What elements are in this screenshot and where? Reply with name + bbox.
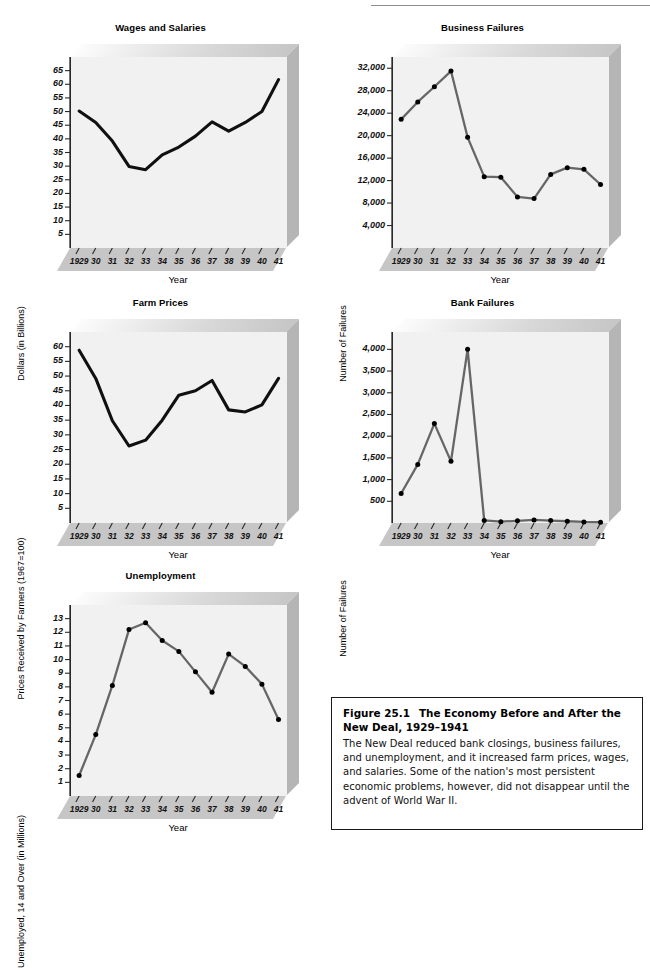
data-point (482, 518, 487, 523)
x-tick (109, 248, 112, 254)
y-tick-label: 13 (53, 613, 63, 623)
y-tick-label: 1 (58, 776, 63, 786)
x-tick (126, 523, 129, 529)
y-tick-label: 3,500 (362, 365, 385, 375)
data-point (143, 620, 148, 625)
x-tick (564, 248, 567, 254)
y-tick-label: 5 (58, 228, 63, 238)
y-tick-label: 500 (370, 495, 385, 505)
data-line-wages (79, 80, 278, 170)
figure-caption-heading: Figure 25.1The Economy Before and After … (343, 707, 631, 734)
x-tick (142, 523, 145, 529)
x-tick (225, 248, 228, 254)
chart-title-bank-failures: Bank Failures (330, 297, 635, 309)
y-tick-label: 50 (53, 106, 63, 116)
chart-farm-prices: Farm Prices51015202530354045505560192930… (8, 297, 313, 562)
data-point (482, 174, 487, 179)
y-tick-label: 3,000 (362, 387, 385, 397)
data-point (110, 683, 115, 688)
data-point (399, 117, 404, 122)
figure-caption-text: The New Deal reduced bank closings, busi… (343, 737, 631, 808)
figure-number: Figure 25.1 (343, 707, 410, 719)
y-tick-label: 8,000 (362, 197, 385, 207)
y-tick-label: 55 (53, 92, 63, 102)
x-tick (531, 248, 534, 254)
y-tick-label: 65 (53, 65, 63, 75)
data-point (565, 519, 570, 524)
y-tick-label: 45 (53, 385, 63, 395)
y-tick-label: 15 (53, 201, 63, 211)
x-tick (259, 523, 262, 529)
y-tick-label: 35 (53, 414, 63, 424)
data-line-unemployment (79, 623, 278, 776)
x-tick (176, 796, 179, 802)
y-tick-label: 10 (53, 654, 63, 664)
chart-body-business-failures: 4,0008,00012,00016,00020,00024,00028,000… (330, 36, 635, 287)
x-tick (93, 248, 96, 254)
x-tick (76, 523, 79, 529)
chart-title-business-failures: Business Failures (330, 22, 635, 34)
data-point (259, 682, 264, 687)
data-point (548, 518, 553, 523)
x-tick (176, 523, 179, 529)
x-tick (76, 248, 79, 254)
x-tick-label: 41 (267, 531, 291, 541)
x-tick (225, 523, 228, 529)
y-tick-label: 50 (53, 370, 63, 380)
x-tick (481, 523, 484, 529)
y-tick-label: 60 (53, 341, 63, 351)
data-point (515, 518, 520, 523)
y-tick-label: 55 (53, 355, 63, 365)
x-tick-label: 41 (589, 256, 613, 266)
x-axis-title-farm-prices: Year (70, 549, 286, 560)
data-point (532, 196, 537, 201)
data-point (515, 194, 520, 199)
x-tick (159, 796, 162, 802)
data-point (498, 175, 503, 180)
y-tick-label: 25 (53, 444, 63, 454)
x-tick-label: 41 (267, 804, 291, 814)
x-tick (192, 796, 195, 802)
x-tick (431, 248, 434, 254)
y-tick-label: 7 (58, 695, 63, 705)
x-tick (531, 523, 534, 529)
y-tick-label: 40 (53, 133, 63, 143)
x-tick (209, 248, 212, 254)
chart-wages: Wages and Salaries5101520253035404550556… (8, 22, 313, 287)
data-point (465, 347, 470, 352)
data-line-farm-prices (79, 350, 278, 446)
x-tick (159, 248, 162, 254)
y-tick-label: 30 (53, 429, 63, 439)
x-tick (514, 248, 517, 254)
chart-body-bank-failures: 5001,0001,5002,0002,5003,0003,5004,00019… (330, 311, 635, 562)
x-tick (398, 523, 401, 529)
x-tick (481, 248, 484, 254)
top-divider-rule (371, 5, 650, 6)
y-tick-label: 20 (53, 458, 63, 468)
chart-body-unemployment: 1234567891011121319293031323334353637383… (8, 584, 313, 835)
x-tick (415, 248, 418, 254)
data-point (226, 652, 231, 657)
data-point (532, 517, 537, 522)
x-tick (126, 796, 129, 802)
x-tick (581, 248, 584, 254)
x-tick (448, 523, 451, 529)
x-tick (275, 248, 278, 254)
x-tick (415, 523, 418, 529)
y-axis-title-bank-failures: Number of Failures (338, 523, 349, 714)
y-tick-label: 28,000 (357, 85, 385, 95)
x-tick (398, 248, 401, 254)
y-tick-label: 4,000 (362, 220, 385, 230)
x-tick (564, 523, 567, 529)
x-tick (109, 796, 112, 802)
chart-title-unemployment: Unemployment (8, 570, 313, 582)
y-tick-label: 10 (53, 488, 63, 498)
y-tick-label: 45 (53, 119, 63, 129)
data-point (598, 182, 603, 187)
x-tick (192, 248, 195, 254)
y-tick-label: 35 (53, 147, 63, 157)
y-tick-label: 12,000 (357, 175, 385, 185)
y-tick-label: 20,000 (357, 130, 385, 140)
x-tick (431, 523, 434, 529)
